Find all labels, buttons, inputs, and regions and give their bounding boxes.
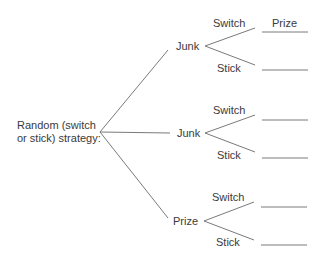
option-stick-2: Stick	[217, 149, 241, 162]
option-switch-1: Switch	[213, 17, 245, 30]
edge-prize-switch	[204, 202, 254, 221]
result-prize-label: Prize	[272, 17, 297, 30]
edge-root-junk-1	[100, 50, 168, 132]
edge-junk2-switch	[205, 115, 255, 133]
node-prize: Prize	[173, 215, 198, 228]
root-label: Random (switch or stick) strategy:	[17, 119, 101, 145]
edge-junk1-switch	[205, 28, 255, 46]
node-junk-1: Junk	[176, 40, 199, 53]
edge-root-prize	[100, 132, 168, 218]
option-switch-2: Switch	[213, 104, 245, 117]
edge-root-junk-2	[100, 132, 170, 133]
option-switch-3: Switch	[212, 191, 244, 204]
option-stick-3: Stick	[216, 236, 240, 249]
node-junk-2: Junk	[177, 127, 200, 140]
option-stick-1: Stick	[217, 62, 241, 75]
root-label-line2: or stick) strategy:	[17, 132, 101, 145]
root-label-line1: Random (switch	[17, 119, 101, 132]
